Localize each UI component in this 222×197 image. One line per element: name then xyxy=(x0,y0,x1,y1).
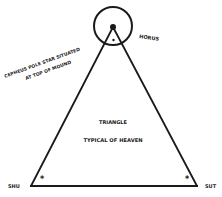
inner-star-icon xyxy=(112,39,114,41)
horus-label: HORUS xyxy=(139,33,160,42)
triangle-sides xyxy=(31,27,197,186)
triangle-subtitle: TYPICAL OF HEAVEN xyxy=(83,137,142,143)
triangle-title: TRIANGLE xyxy=(99,119,127,125)
sut-label: SUT xyxy=(205,183,217,189)
shu-label: SHU xyxy=(8,183,20,189)
right-star-icon: * xyxy=(185,175,190,184)
left-star-icon: * xyxy=(40,175,45,184)
heaven-triangle-diagram: * * HORUS CEPHEUS POLE STAR SITUATED AT … xyxy=(0,0,222,197)
